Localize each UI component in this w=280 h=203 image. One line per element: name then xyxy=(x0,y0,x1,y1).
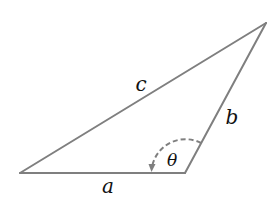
triangle-figure xyxy=(0,0,280,203)
side-c-line xyxy=(20,23,266,173)
side-a-label: a xyxy=(102,176,114,196)
angle-theta-label: θ xyxy=(167,152,177,169)
side-b-line xyxy=(185,23,266,173)
triangle-diagram: c b a θ xyxy=(0,0,280,203)
angle-arrowhead-icon xyxy=(149,164,156,172)
side-c-label: c xyxy=(135,74,146,94)
side-b-label: b xyxy=(226,107,239,127)
